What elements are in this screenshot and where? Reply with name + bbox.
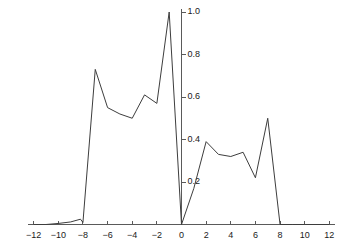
x-tick-label: −10: [51, 230, 66, 240]
x-tick-label: 8: [278, 230, 283, 240]
plot-area: −12−10−8−6−4−2024681012 0.20.40.60.81.0: [0, 0, 351, 243]
x-tick-label: −12: [26, 230, 41, 240]
x-tick-label: −2: [152, 230, 162, 240]
x-tick-label: 4: [228, 230, 233, 240]
y-tick-label: 1.0: [188, 6, 201, 16]
x-tick-label: −8: [78, 230, 88, 240]
x-tick-labels: −12−10−8−6−4−2024681012: [26, 230, 334, 240]
y-tick-label: 0.6: [188, 91, 201, 101]
x-tick-label: 6: [253, 230, 258, 240]
y-tick-label: 0.8: [188, 49, 201, 59]
x-tick-label: 2: [204, 230, 209, 240]
y-tick-label: 0.2: [188, 176, 201, 186]
line-chart: −12−10−8−6−4−2024681012 0.20.40.60.81.0: [0, 0, 351, 243]
y-tick-label: 0.4: [188, 134, 201, 144]
y-tick-labels: 0.20.40.60.81.0: [188, 6, 201, 186]
x-tick-label: 12: [324, 230, 334, 240]
x-tick-label: 0: [179, 230, 184, 240]
x-tick-label: 10: [300, 230, 310, 240]
x-tick-label: −6: [102, 230, 112, 240]
x-tick-label: −4: [127, 230, 137, 240]
